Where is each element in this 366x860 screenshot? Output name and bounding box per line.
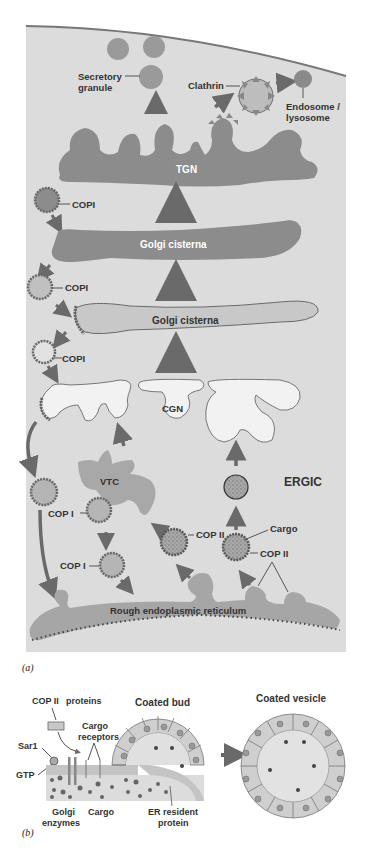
clathrin-label: Clathrin bbox=[188, 80, 224, 91]
endosome-label: lysosome bbox=[286, 112, 330, 123]
golgi-enzymes-label: enzymes bbox=[42, 818, 80, 828]
cargo-receptors-label: receptors bbox=[78, 732, 119, 742]
copi-vesicle bbox=[35, 188, 59, 212]
cop-i-label: COP I bbox=[60, 560, 86, 571]
panel-a-caption: (a) bbox=[22, 662, 34, 674]
cargo-label: Cargo bbox=[270, 523, 298, 534]
cop-i-vesicle bbox=[87, 498, 111, 522]
ergic-label: ERGIC bbox=[284, 475, 322, 489]
cargo-label: Cargo bbox=[88, 807, 115, 817]
cop-ii-vesicle bbox=[223, 534, 249, 560]
copi-label: COPI bbox=[72, 199, 95, 210]
copi-label: COPI bbox=[65, 282, 88, 293]
er-membrane bbox=[46, 765, 138, 775]
er-resident-label: ER resident bbox=[148, 807, 198, 817]
secretory-granule-label: Secretory bbox=[78, 71, 123, 82]
coated-bud bbox=[112, 716, 204, 768]
cargo-vesicle bbox=[224, 475, 248, 499]
sar1-label: Sar1 bbox=[18, 741, 38, 751]
cop-i-label: COP I bbox=[48, 508, 74, 519]
coated-vesicle bbox=[241, 714, 345, 818]
secretory-granule-label: granule bbox=[78, 82, 112, 93]
cop-ii-proteins-label: proteins bbox=[66, 696, 102, 706]
copi-vesicle bbox=[33, 341, 55, 363]
cop-ii-proteins-label: COP II bbox=[32, 696, 59, 706]
cargo-receptors-label: Cargo bbox=[82, 721, 109, 731]
secretory-granule bbox=[143, 36, 165, 58]
cop-ii-label: COP II bbox=[196, 529, 224, 540]
secretory-granule bbox=[107, 38, 129, 60]
cop-i-vesicle bbox=[31, 479, 57, 505]
secretory-granule bbox=[139, 65, 163, 89]
endosome-lysosome bbox=[294, 70, 312, 88]
panel-a: Secretory granule Clathrin Endosome / l bbox=[22, 26, 346, 674]
golgi-cisterna-label: Golgi cisterna bbox=[140, 239, 207, 250]
cgn-label: CGN bbox=[162, 403, 183, 414]
vtc-label: VTC bbox=[100, 476, 119, 487]
copi-vesicle bbox=[28, 275, 52, 299]
gtp-label: GTP bbox=[16, 770, 35, 780]
coated-bud-label: Coated bud bbox=[135, 697, 190, 708]
panel-b: COP II proteins Coated bud Coated vesicl… bbox=[16, 693, 345, 839]
coated-vesicle-label: Coated vesicle bbox=[256, 693, 326, 704]
endosome-label: Endosome / bbox=[286, 101, 340, 112]
rough-er-label: Rough endoplasmic reticulum bbox=[110, 605, 246, 616]
clathrin-coated-vesicle bbox=[237, 76, 275, 116]
vesicle-transport-diagram: Secretory granule Clathrin Endosome / l bbox=[0, 0, 366, 860]
cop-i-vesicle bbox=[100, 553, 124, 577]
cop-ii-protein-block bbox=[48, 722, 64, 730]
panel-b-caption: (b) bbox=[22, 827, 34, 839]
golgi-cisterna-label: Golgi cisterna bbox=[152, 315, 219, 326]
cop-ii-vesicle bbox=[161, 529, 187, 555]
arrow-icon bbox=[276, 82, 287, 83]
golgi-enzymes-label: Golgi bbox=[52, 807, 75, 817]
cop-ii-label: COP II bbox=[260, 548, 288, 559]
copi-label: COPI bbox=[62, 353, 85, 364]
er-resident-label: protein bbox=[158, 818, 189, 828]
tgn-label: TGN bbox=[176, 164, 197, 175]
sar1-gtp bbox=[50, 757, 58, 765]
